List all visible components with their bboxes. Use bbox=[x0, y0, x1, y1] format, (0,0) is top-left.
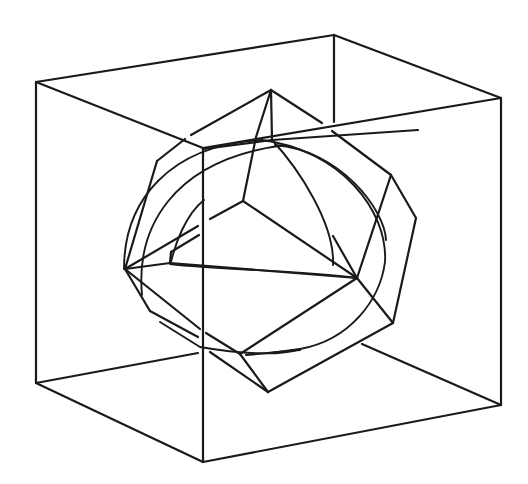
cube-edge bbox=[36, 82, 203, 148]
sphere-arc bbox=[272, 140, 333, 265]
cube-edge bbox=[36, 35, 334, 82]
polyhedron-edge bbox=[357, 278, 393, 323]
cube-edge bbox=[362, 344, 501, 405]
polyhedron-edge bbox=[271, 90, 322, 123]
polyhedron-edge bbox=[171, 235, 199, 252]
cube-edge bbox=[36, 353, 198, 383]
polyhedron-edge bbox=[170, 252, 171, 263]
cube-edge bbox=[203, 405, 501, 462]
polyhedron-edge bbox=[268, 323, 393, 392]
polyhedron-edge bbox=[125, 269, 200, 329]
polyhedron-edge bbox=[243, 201, 357, 278]
polyhedron-edge bbox=[170, 263, 357, 278]
cube-edge bbox=[36, 383, 203, 462]
polyhedron-edge bbox=[240, 278, 357, 354]
polyhedron-edge bbox=[333, 236, 357, 278]
polyhedron-edge bbox=[157, 139, 185, 161]
polyhedron-edge bbox=[210, 352, 268, 392]
polyhedron-edge bbox=[393, 218, 416, 323]
polyhedron-edge bbox=[272, 130, 418, 140]
polyhedron-edge bbox=[125, 269, 150, 311]
polyhedron-edge bbox=[391, 175, 416, 218]
cube-edge bbox=[334, 35, 501, 98]
diagram-canvas bbox=[0, 0, 528, 484]
polyhedron-edge bbox=[332, 131, 391, 175]
polyhedron-edge bbox=[243, 137, 256, 201]
polyhedron-edge bbox=[150, 311, 198, 337]
polyhedron-edge bbox=[240, 354, 268, 392]
polyhedron-cube-figure bbox=[0, 0, 528, 484]
polyhedron-edge bbox=[210, 201, 243, 219]
polyhedron-edge bbox=[271, 90, 272, 140]
sphere-arc bbox=[141, 145, 285, 295]
